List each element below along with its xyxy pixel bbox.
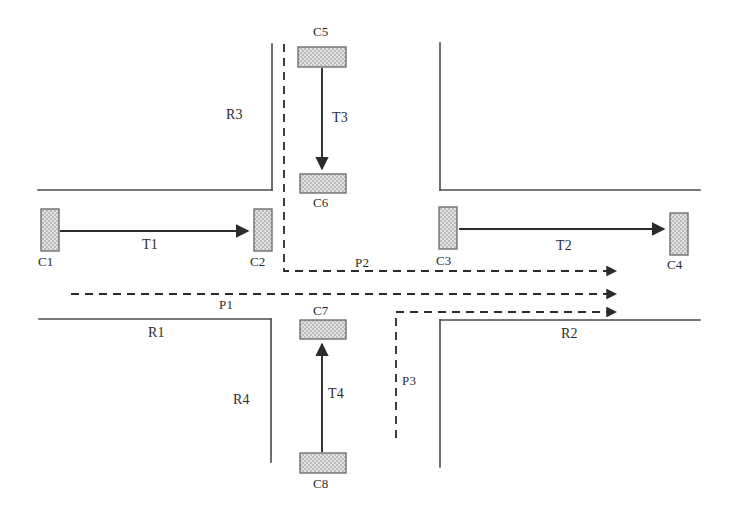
car-c4-box xyxy=(670,213,688,255)
diagram-canvas: C1 C2 C3 C4 C5 C6 C7 C8 T1 T2 T3 T4 P1 P… xyxy=(0,0,729,518)
path-label-p1: P1 xyxy=(219,297,233,313)
car-c1-box xyxy=(41,209,59,251)
car-label-c7: C7 xyxy=(313,303,329,319)
car-c3-box xyxy=(439,207,457,249)
car-label-c6: C6 xyxy=(313,195,329,211)
road-label-r3: R3 xyxy=(226,107,243,123)
car-c8-box xyxy=(300,453,346,473)
path-label-p2: P2 xyxy=(355,255,369,271)
path-p3-line xyxy=(396,312,616,438)
trajectory-label-t1: T1 xyxy=(142,237,158,253)
road-label-r4: R4 xyxy=(233,392,250,408)
road-label-r1: R1 xyxy=(148,325,165,341)
road-label-r2: R2 xyxy=(561,326,578,342)
car-label-c3: C3 xyxy=(436,253,452,269)
car-c6-box xyxy=(300,174,346,193)
car-label-c5: C5 xyxy=(313,24,329,40)
car-c7-box xyxy=(300,320,346,339)
path-label-p3: P3 xyxy=(402,373,416,389)
car-c2-box xyxy=(254,209,272,251)
car-label-c8: C8 xyxy=(313,476,329,492)
car-label-c2: C2 xyxy=(250,254,266,270)
trajectory-label-t4: T4 xyxy=(328,386,344,402)
trajectory-label-t2: T2 xyxy=(556,238,572,254)
trajectory-label-t3: T3 xyxy=(332,110,348,126)
car-label-c4: C4 xyxy=(667,257,683,273)
car-label-c1: C1 xyxy=(38,254,54,270)
car-c5-box xyxy=(298,47,346,67)
